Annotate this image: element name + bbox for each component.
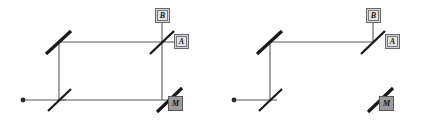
detector-label-b: B [368,10,379,21]
detector-box-b[interactable]: B [366,8,381,23]
detector-label-a: A [176,36,187,47]
detector-label-b: B [157,10,168,21]
interferometer-diagram-right: B A M [211,0,421,124]
detector-box-b[interactable]: B [155,8,170,23]
interferometer-diagram-left: B A M [0,0,210,124]
detector-label-a: A [387,36,398,47]
detector-label-m: M [170,98,181,109]
light-source-point [21,98,26,103]
detector-box-m[interactable]: M [379,96,394,111]
detector-box-a[interactable]: A [385,34,400,49]
detector-box-a[interactable]: A [174,34,189,49]
figure-canvas: B A M B [0,0,421,124]
light-source-point [232,98,237,103]
detector-label-m: M [381,98,392,109]
detector-box-m[interactable]: M [168,96,183,111]
